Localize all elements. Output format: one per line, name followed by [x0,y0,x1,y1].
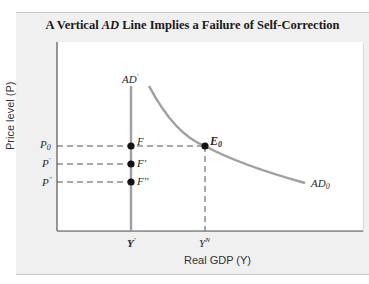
x-tick-yn: YN [199,236,210,249]
point-e0 [201,142,208,149]
ad0-curve [149,86,305,183]
point-f [127,142,134,149]
y-tick-p0: P0 [40,138,51,152]
ad0-label: AD0 [311,177,330,191]
point-e0-label: E0 [210,134,222,149]
x-axis-title: Real GDP (Y) [184,254,251,266]
x-tick-y-prime: Y' [127,236,136,249]
point-f-double-prime-label: F'' [137,175,148,187]
point-f-prime [127,160,134,167]
point-f-prime-label: F' [137,157,146,169]
ad-prime-label: AD' [122,72,138,85]
chart-svg [0,0,369,284]
y-tick-p-prime: P' [42,156,50,169]
point-f-double-prime [127,178,134,185]
point-f-label: F [137,135,144,147]
y-axis-title: Price level (P) [4,82,16,150]
y-tick-p-double-prime: P'' [42,175,52,188]
